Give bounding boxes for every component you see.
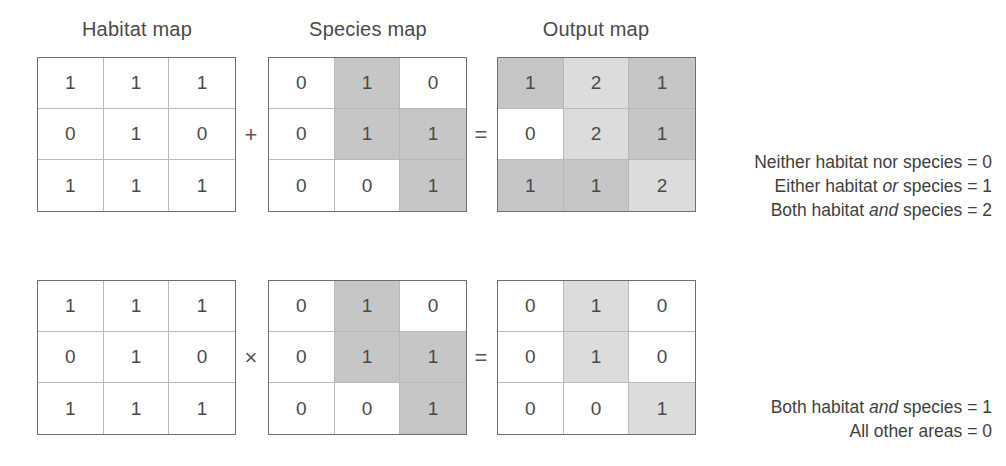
output-mul-cell-r1c1: 0 [498,281,564,332]
cell-value: 1 [657,398,668,420]
cell-value: 2 [591,72,602,94]
legend-text: Neither habitat nor species = 0 [754,152,992,172]
legend-emphasis: and [869,200,898,220]
species-add-cell-r3c3: 1 [400,160,466,211]
cell-value: 1 [197,295,208,317]
cell-value: 0 [197,123,208,145]
cell-value: 0 [525,123,536,145]
species-add-cell-r2c3: 1 [400,109,466,160]
habitat-mul-cell-r1c2: 1 [104,281,170,332]
habitat-mul-cell-r2c1: 0 [38,332,104,383]
legend-text: Either habitat [775,176,883,196]
species-mul-cell-r2c3: 1 [400,332,466,383]
habitat-add-cell-r3c1: 1 [38,160,104,211]
output-add-cell-r1c3: 1 [629,58,695,109]
title-habitat-map: Habitat map [82,18,192,41]
species-add-cell-r3c2: 0 [335,160,401,211]
cell-value: 1 [428,346,439,368]
cell-value: 0 [296,295,307,317]
habitat-add-cell-r2c2: 1 [104,109,170,160]
species-mul-cell-r2c2: 1 [335,332,401,383]
species-add-cell-r2c2: 1 [335,109,401,160]
legend-addition: Neither habitat nor species = 0Either ha… [754,150,992,222]
cell-value: 1 [131,295,142,317]
output-add-cell-r1c2: 2 [564,58,630,109]
cell-value: 1 [131,123,142,145]
operator-equals-bottom: = [468,347,494,369]
title-species-map: Species map [309,18,427,41]
cell-value: 0 [362,175,373,197]
cell-value: 1 [525,72,536,94]
species-add-cell-r3c1: 0 [269,160,335,211]
legend-multiplication: Both habitat and species = 1All other ar… [771,395,992,443]
cell-value: 0 [197,346,208,368]
species-add-cell-r1c1: 0 [269,58,335,109]
legend-addition-line-3: Both habitat and species = 2 [754,198,992,222]
habitat-add-cell-r1c2: 1 [104,58,170,109]
cell-value: 1 [65,398,76,420]
cell-value: 1 [131,72,142,94]
cell-value: 1 [428,398,439,420]
cell-value: 1 [428,123,439,145]
habitat-mul-cell-r1c1: 1 [38,281,104,332]
grid-output-multiplication: 010010001 [497,280,696,435]
legend-text: All other areas = 0 [849,421,992,441]
legend-text: species = 1 [898,397,992,417]
habitat-mul-cell-r2c3: 0 [169,332,235,383]
legend-text: Both habitat [771,200,869,220]
legend-multiplication-line-2: All other areas = 0 [771,419,992,443]
cell-value: 0 [428,295,439,317]
cell-value: 1 [197,175,208,197]
cell-value: 1 [428,175,439,197]
output-mul-cell-r2c3: 0 [629,332,695,383]
output-mul-cell-r3c2: 0 [564,383,630,434]
output-add-cell-r2c1: 0 [498,109,564,160]
cell-value: 1 [197,72,208,94]
output-mul-cell-r2c2: 1 [564,332,630,383]
habitat-add-cell-r2c3: 0 [169,109,235,160]
cell-value: 1 [591,295,602,317]
output-add-cell-r2c3: 1 [629,109,695,160]
cell-value: 1 [131,398,142,420]
cell-value: 1 [65,175,76,197]
cell-value: 1 [197,398,208,420]
species-mul-cell-r3c2: 0 [335,383,401,434]
cell-value: 2 [657,175,668,197]
output-add-cell-r1c1: 1 [498,58,564,109]
cell-value: 1 [65,295,76,317]
grid-output-addition: 121021112 [497,57,696,212]
cell-value: 0 [657,295,668,317]
cell-value: 1 [362,72,373,94]
cell-value: 1 [591,346,602,368]
habitat-add-cell-r3c3: 1 [169,160,235,211]
habitat-mul-cell-r3c1: 1 [38,383,104,434]
cell-value: 0 [525,398,536,420]
species-add-cell-r2c1: 0 [269,109,335,160]
habitat-add-cell-r1c1: 1 [38,58,104,109]
species-add-cell-r1c3: 0 [400,58,466,109]
habitat-add-cell-r3c2: 1 [104,160,170,211]
legend-emphasis: or [883,176,899,196]
cell-value: 0 [428,72,439,94]
cell-value: 0 [296,346,307,368]
legend-addition-line-1: Neither habitat nor species = 0 [754,150,992,174]
output-add-cell-r3c2: 1 [564,160,630,211]
cell-value: 1 [65,72,76,94]
species-mul-cell-r3c3: 1 [400,383,466,434]
grid-species-multiplication: 010011001 [268,280,467,435]
cell-value: 1 [525,175,536,197]
cell-value: 0 [296,123,307,145]
habitat-add-cell-r1c3: 1 [169,58,235,109]
output-add-cell-r2c2: 2 [564,109,630,160]
species-mul-cell-r1c2: 1 [335,281,401,332]
legend-addition-line-2: Either habitat or species = 1 [754,174,992,198]
title-output-map: Output map [543,18,650,41]
output-mul-cell-r2c1: 0 [498,332,564,383]
habitat-mul-cell-r3c2: 1 [104,383,170,434]
cell-value: 0 [525,295,536,317]
cell-value: 1 [657,72,668,94]
cell-value: 1 [362,123,373,145]
habitat-mul-cell-r3c3: 1 [169,383,235,434]
legend-text: Both habitat [771,397,869,417]
cell-value: 0 [362,398,373,420]
